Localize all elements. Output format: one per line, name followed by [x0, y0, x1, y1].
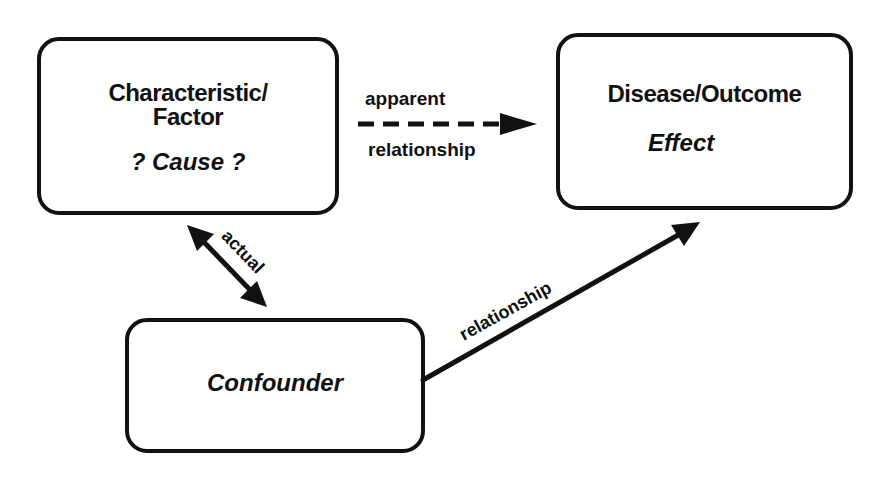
apparent-label-bottom: relationship [368, 139, 476, 161]
apparent-label-top: apparent [365, 88, 445, 110]
edges-layer [0, 0, 894, 488]
relationship-arrow [423, 222, 700, 380]
apparent-arrow [358, 113, 537, 135]
arrowhead-icon [500, 113, 537, 135]
